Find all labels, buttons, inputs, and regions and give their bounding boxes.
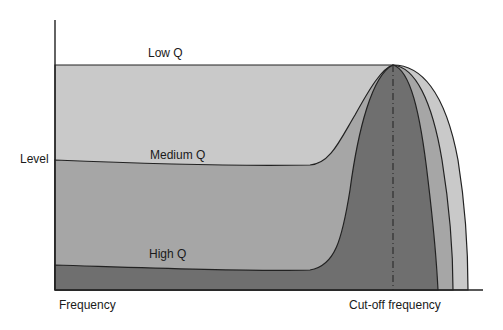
medium-q-label: Medium Q [150, 148, 205, 162]
x-axis-label: Frequency [59, 298, 116, 312]
high-q-label: High Q [149, 247, 186, 261]
y-axis-label: Level [20, 152, 49, 166]
low-q-label: Low Q [148, 46, 183, 60]
filter-response-diagram [0, 0, 503, 330]
cutoff-label: Cut-off frequency [349, 298, 441, 312]
